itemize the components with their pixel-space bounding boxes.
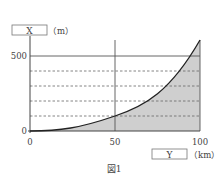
x-tick-0: 0 [27,137,32,147]
x-label-text: Y [166,150,174,160]
y-unit: （m） [48,26,74,36]
x-unit: （km） [189,150,220,160]
x-tick-100: 100 [192,137,208,147]
figure-caption: 図1 [107,164,122,174]
x-tick-50: 50 [110,137,121,147]
y-tick-500: 500 [11,51,27,61]
y-label-text: X [26,26,33,36]
y-tick-0: 0 [22,126,27,136]
chart-figure: X （m） 500 0 0 50 100 Y （km） 図1 [0,0,222,193]
